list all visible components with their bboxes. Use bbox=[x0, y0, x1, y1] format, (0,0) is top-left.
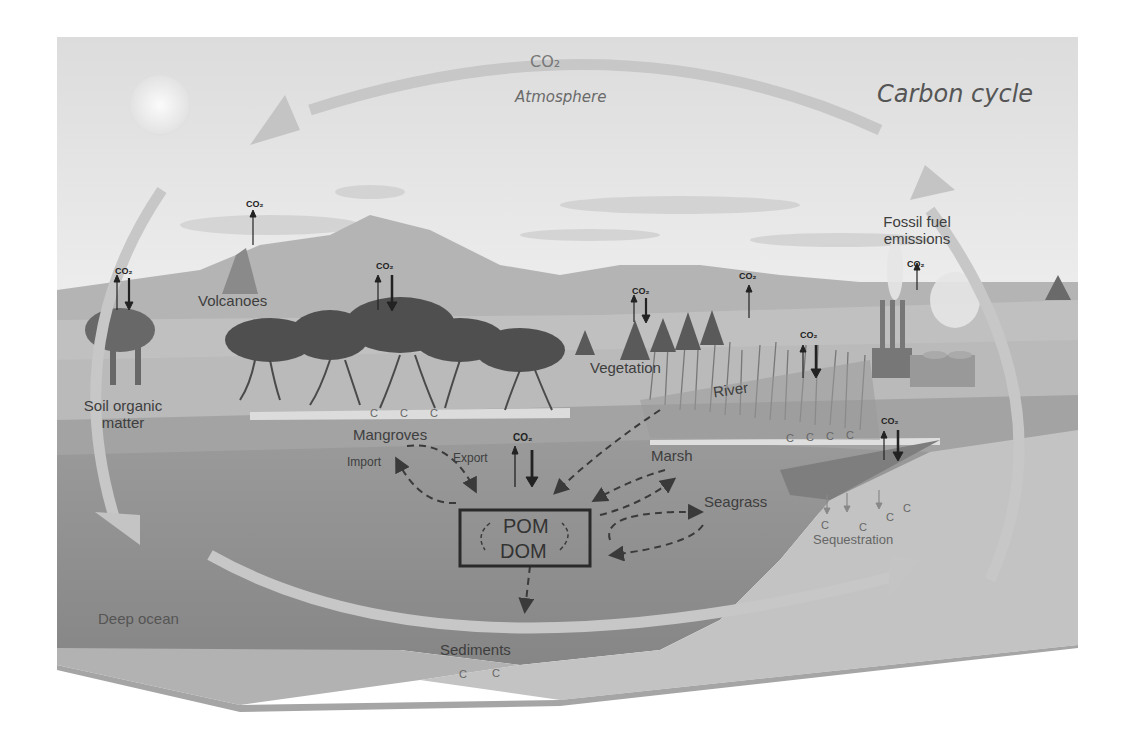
carbon-marker: C bbox=[826, 431, 834, 442]
atmosphere-label: Atmosphere bbox=[515, 90, 606, 105]
co2-marker-river: CO₂ bbox=[739, 272, 757, 281]
carbon-marker: C bbox=[903, 503, 911, 514]
import-label: Import bbox=[347, 456, 381, 468]
sequestration-label: Sequestration bbox=[813, 533, 893, 546]
deep-ocean-label: Deep ocean bbox=[98, 611, 179, 626]
carbon-marker: C bbox=[821, 520, 829, 531]
seagrass-label: Seagrass bbox=[704, 494, 767, 509]
carbon-marker: C bbox=[846, 430, 854, 441]
carbon-marker: C bbox=[886, 512, 894, 523]
pom-label: POM bbox=[503, 516, 549, 536]
diagram-title: Carbon cycle bbox=[877, 82, 1033, 106]
export-label: Export bbox=[453, 452, 488, 464]
soil-organic-matter-label: Soil organic matter bbox=[73, 398, 173, 430]
carbon-marker: C bbox=[459, 669, 467, 680]
atmosphere-co2-label: CO₂ bbox=[530, 54, 560, 70]
carbon-marker: C bbox=[430, 408, 438, 419]
carbon-marker: C bbox=[400, 408, 408, 419]
fossil-label-line2: emissions bbox=[862, 231, 972, 246]
volcanoes-label: Volcanoes bbox=[198, 293, 267, 308]
carbon-marker: C bbox=[859, 522, 867, 533]
co2-marker-fossil: CO₂ bbox=[907, 260, 925, 269]
marsh-label: Marsh bbox=[651, 448, 693, 463]
co2-marker-seagrass: CO₂ bbox=[881, 417, 899, 426]
co2-marker-ocean: CO₂ bbox=[513, 433, 532, 443]
co2-marker-marsh: CO₂ bbox=[800, 331, 818, 340]
vegetation-label: Vegetation bbox=[590, 360, 661, 375]
carbon-marker: C bbox=[370, 408, 378, 419]
carbon-marker: C bbox=[492, 668, 500, 679]
co2-marker-mangroves: CO₂ bbox=[376, 262, 394, 271]
soil-label-line1: Soil organic bbox=[73, 398, 173, 413]
sediments-label: Sediments bbox=[440, 642, 511, 657]
co2-marker-volcano: CO₂ bbox=[246, 200, 264, 209]
fossil-fuel-emissions-label: Fossil fuel emissions bbox=[862, 214, 972, 246]
mangroves-label: Mangroves bbox=[353, 427, 427, 442]
fossil-label-line1: Fossil fuel bbox=[862, 214, 972, 229]
co2-marker-vegetation: CO₂ bbox=[632, 287, 650, 296]
dom-label: DOM bbox=[500, 541, 547, 561]
sun bbox=[130, 75, 190, 135]
carbon-marker: C bbox=[806, 432, 814, 443]
soil-label-line2: matter bbox=[73, 415, 173, 430]
carbon-marker: C bbox=[786, 433, 794, 444]
co2-marker-soil: CO₂ bbox=[115, 267, 133, 276]
